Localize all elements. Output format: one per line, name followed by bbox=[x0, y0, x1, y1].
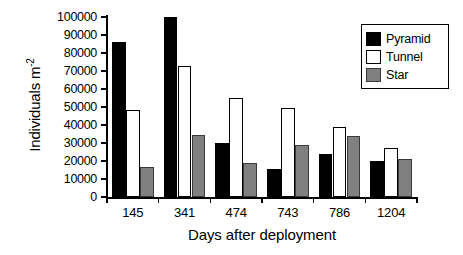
y-axis-tick-label: 10000 bbox=[64, 173, 97, 186]
y-axis-tick-label: 90000 bbox=[64, 29, 97, 42]
bar-star-341 bbox=[192, 135, 206, 197]
bar-chart: Individuals m-2 010000200003000040000500… bbox=[0, 0, 463, 255]
bar-tunnel-1204 bbox=[384, 148, 398, 197]
bar-star-743 bbox=[295, 145, 309, 197]
y-axis-tick-label: 60000 bbox=[64, 83, 97, 96]
legend-item-pyramid: Pyramid bbox=[366, 30, 444, 47]
bar-star-1204 bbox=[398, 159, 412, 197]
x-axis-title: Days after deployment bbox=[107, 226, 417, 243]
y-axis-tick-label: 70000 bbox=[64, 65, 97, 78]
y-axis-title-text: Individuals m bbox=[26, 67, 43, 152]
x-axis-tick-label: 1204 bbox=[361, 205, 421, 220]
bar-star-474 bbox=[243, 163, 257, 197]
bar-tunnel-145 bbox=[126, 110, 140, 197]
legend-label-pyramid: Pyramid bbox=[386, 32, 430, 46]
bar-tunnel-786 bbox=[333, 127, 347, 197]
legend-label-tunnel: Tunnel bbox=[386, 50, 423, 64]
x-axis-tick bbox=[210, 197, 211, 203]
legend: PyramidTunnelStar bbox=[361, 24, 449, 89]
legend-swatch-tunnel bbox=[366, 50, 381, 64]
bar-star-786 bbox=[347, 136, 361, 197]
x-axis-tick bbox=[365, 197, 366, 203]
y-axis-tick-label: 20000 bbox=[64, 155, 97, 168]
bar-pyramid-743 bbox=[267, 169, 281, 197]
y-axis-title-exponent: -2 bbox=[25, 58, 36, 67]
y-axis-tick-label: 80000 bbox=[64, 47, 97, 60]
bar-pyramid-1204 bbox=[370, 161, 384, 197]
bar-pyramid-341 bbox=[164, 17, 178, 197]
y-axis-tick-label: 0 bbox=[90, 191, 97, 204]
x-axis-tick bbox=[158, 197, 159, 203]
bar-tunnel-743 bbox=[281, 108, 295, 197]
y-axis-tick-label: 40000 bbox=[64, 119, 97, 132]
y-axis-tick-label: 30000 bbox=[64, 137, 97, 150]
x-axis-tick bbox=[261, 197, 262, 203]
legend-swatch-pyramid bbox=[366, 32, 381, 46]
bar-tunnel-474 bbox=[229, 98, 243, 197]
legend-item-tunnel: Tunnel bbox=[366, 48, 444, 65]
x-axis-tick bbox=[106, 197, 107, 203]
y-axis-title: Individuals m-2 bbox=[25, 25, 43, 185]
x-axis-tick bbox=[313, 197, 314, 203]
legend-item-star: Star bbox=[366, 66, 444, 83]
y-axis-tick-label: 50000 bbox=[64, 101, 97, 114]
bar-pyramid-474 bbox=[215, 143, 229, 197]
bar-pyramid-786 bbox=[319, 154, 333, 197]
y-axis-tick-label: 100000 bbox=[57, 11, 97, 24]
x-axis-tick bbox=[416, 197, 417, 203]
legend-label-star: Star bbox=[386, 68, 408, 82]
bar-star-145 bbox=[140, 167, 154, 197]
bar-tunnel-341 bbox=[178, 66, 192, 197]
legend-swatch-star bbox=[366, 68, 381, 82]
bar-pyramid-145 bbox=[112, 42, 126, 197]
